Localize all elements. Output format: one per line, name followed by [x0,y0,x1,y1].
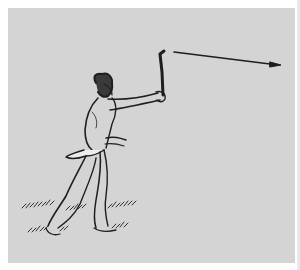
figure-head [94,74,112,97]
illustration [0,0,300,270]
figure-torso [85,98,116,150]
boomerang [160,51,164,95]
figure-legs [46,150,116,235]
trajectory-arrow [174,52,281,67]
figure-arm-extended [108,91,165,110]
